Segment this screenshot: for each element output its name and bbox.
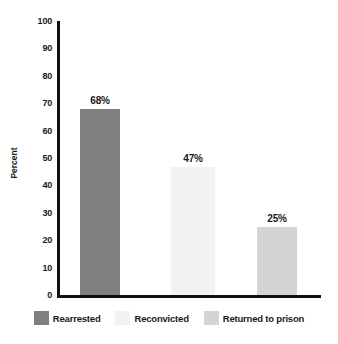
bar-value-label: 68%	[90, 95, 109, 106]
x-axis-line	[57, 295, 321, 298]
legend-label: Reconvicted	[134, 313, 188, 324]
y-axis-tick: 20	[22, 236, 52, 246]
legend-item-reconvicted[interactable]: Reconvicted	[115, 311, 188, 325]
y-axis-tick: 60	[22, 127, 52, 137]
y-axis-tick-label: 80	[22, 72, 52, 81]
bar-chart: Percent 1009080706050403020100 68%47%25%…	[0, 0, 338, 344]
bar-returned-to-prison: 25%	[257, 227, 297, 295]
bar-value-label: 25%	[267, 213, 286, 224]
y-axis-title: Percent	[9, 133, 19, 193]
y-axis-tick: 0	[22, 291, 52, 301]
legend-swatch-icon	[34, 311, 49, 325]
y-axis-tick: 70	[22, 99, 52, 109]
bar-value-label: 47%	[183, 153, 202, 164]
bar-reconvicted: 47%	[171, 167, 215, 295]
legend-swatch-icon	[204, 311, 219, 325]
y-axis-tick-label: 40	[22, 181, 52, 190]
legend-item-returned-to-prison[interactable]: Returned to prison	[204, 311, 304, 325]
y-axis-tick: 80	[22, 72, 52, 82]
y-axis-tick-label: 0	[22, 291, 52, 300]
y-axis-tick: 90	[22, 44, 52, 54]
y-axis-tick-label: 20	[22, 236, 52, 245]
y-axis-tick: 100	[22, 17, 52, 27]
plot-area: 68%47%25%	[60, 21, 321, 295]
bar-rearrested: 68%	[80, 109, 120, 295]
chart-legend: RearrestedReconvictedReturned to prison	[0, 311, 338, 325]
y-axis-tick-label: 10	[22, 264, 52, 273]
y-axis-tick-label: 30	[22, 209, 52, 218]
y-axis-tick-label: 70	[22, 99, 52, 108]
y-axis-tick: 40	[22, 181, 52, 191]
y-axis-tick-label: 50	[22, 154, 52, 163]
y-axis-tick-label: 90	[22, 44, 52, 53]
y-axis-tick-label: 60	[22, 127, 52, 136]
legend-label: Returned to prison	[223, 313, 304, 324]
y-axis-tick: 30	[22, 209, 52, 219]
legend-item-rearrested[interactable]: Rearrested	[34, 311, 101, 325]
legend-swatch-icon	[115, 311, 130, 325]
legend-label: Rearrested	[53, 313, 101, 324]
y-axis-tick: 50	[22, 154, 52, 164]
y-axis-tick-label: 100	[22, 17, 52, 26]
y-axis-tick: 10	[22, 264, 52, 274]
